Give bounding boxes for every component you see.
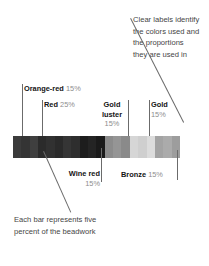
strip-bar xyxy=(80,136,88,158)
leader-line-gold-luster xyxy=(128,100,129,136)
strip-bar xyxy=(30,136,38,158)
label-gold-luster-name-line-2: luster xyxy=(102,110,122,119)
strip-bar xyxy=(71,136,79,158)
annotation-bottom-left: Each bar represents five percent of the … xyxy=(14,214,96,237)
strip-bar xyxy=(63,136,71,158)
leader-line-orange-red xyxy=(22,84,23,136)
annotation-top-right-line-4: they are used in xyxy=(133,49,199,61)
strip-bar xyxy=(21,136,29,158)
strip-bar xyxy=(155,136,163,158)
beadwork-bar-strip xyxy=(13,136,180,158)
strip-bar xyxy=(130,136,138,158)
label-gold: Gold 15% xyxy=(151,100,168,119)
annotation-top-right-line-1: Clear labels identify xyxy=(133,14,199,26)
strip-bar xyxy=(105,136,113,158)
strip-bar xyxy=(172,136,180,158)
strip-bar xyxy=(46,136,54,158)
annotation-top-right: Clear labels identify the colors used an… xyxy=(133,14,199,60)
strip-bar xyxy=(55,136,63,158)
label-red: Red 25% xyxy=(44,100,75,109)
label-orange-red-name: Orange-red xyxy=(24,84,64,93)
label-wine-red-name: Wine red xyxy=(69,169,100,178)
label-gold-percent: 15% xyxy=(151,110,166,119)
strip-bar xyxy=(113,136,121,158)
diagram-canvas: Clear labels identify the colors used an… xyxy=(0,0,209,266)
label-orange-red-percent: 15% xyxy=(66,84,81,93)
label-gold-luster: Gold luster 15% xyxy=(97,100,127,129)
strip-bar xyxy=(13,136,21,158)
strip-bar xyxy=(163,136,171,158)
label-bronze: Bronze 15% xyxy=(121,170,163,179)
annotation-bottom-left-line-2: percent of the beadwork xyxy=(14,226,96,238)
leader-line-red xyxy=(42,100,43,136)
label-gold-name: Gold xyxy=(151,100,168,109)
label-red-percent: 25% xyxy=(60,100,75,109)
strip-bar xyxy=(88,136,96,158)
label-red-name: Red xyxy=(44,100,58,109)
leader-line-gold xyxy=(149,100,150,136)
annotation-bottom-left-line-1: Each bar represents five xyxy=(14,214,96,226)
strip-bar xyxy=(121,136,129,158)
label-bronze-name: Bronze xyxy=(121,170,146,179)
label-gold-luster-name-line-1: Gold xyxy=(104,100,121,109)
label-bronze-percent: 15% xyxy=(148,170,163,179)
label-orange-red: Orange-red 15% xyxy=(24,84,81,93)
strip-bar xyxy=(147,136,155,158)
annotation-top-right-line-2: the colors used and xyxy=(133,26,199,38)
label-wine-red-percent: 15% xyxy=(85,179,100,188)
leader-line-bronze xyxy=(177,150,178,180)
label-gold-luster-percent: 15% xyxy=(105,119,120,128)
strip-bar xyxy=(138,136,146,158)
leader-line-wine-red xyxy=(101,148,102,182)
